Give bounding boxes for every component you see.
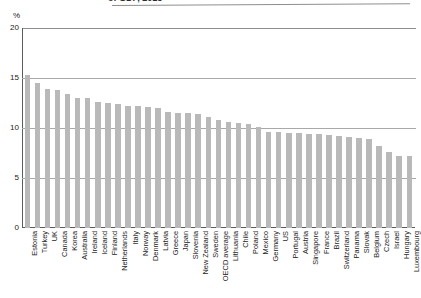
y-tick-label: 20 [1,24,19,32]
x-tick-label: Estonia [31,206,38,231]
x-label-slot: Denmark [144,231,154,298]
x-label-slot: Norway [134,231,144,298]
x-label-slot: France [314,231,324,298]
x-label-slot: New Zealand [194,231,204,298]
x-label-slot: Poland [244,231,254,298]
bar [25,75,31,228]
x-label-slot: Latvia [154,231,164,298]
bar-slot [134,28,144,228]
x-label-slot: Sweden [204,231,214,298]
bar-slot [23,28,33,228]
x-tick-label: Iceland [101,207,108,231]
x-label-slot: Portugal [284,231,294,298]
x-label-slot: Switzerland [335,231,345,298]
bar-slot [294,28,304,228]
chart-title-text: of GDP, 2015 [108,0,162,3]
x-label-slot: Iceland [93,231,103,298]
bar-slot [184,28,194,228]
bars-group [23,28,415,228]
x-label-slot: Belgium [365,231,375,298]
x-label-slot: Canada [53,231,63,298]
bar [135,106,141,228]
x-label-slot: Lithuania [224,231,234,298]
x-tick-label: Brazil [333,213,340,231]
x-tick-label: Netherlands [121,191,128,231]
x-tick-label: Singapore [312,197,319,231]
x-tick-label: Mexico [262,208,269,231]
bar-slot [244,28,254,228]
x-tick-label: Lithuania [232,201,239,231]
bar-slot [375,28,385,228]
x-label-slot: Australia [73,231,83,298]
x-label-slot: Finland [103,231,113,298]
bar [55,90,61,228]
x-label-slot: Israel [385,231,395,298]
bar-slot [395,28,405,228]
x-tick-label: Belgium [373,204,380,231]
bar-slot [43,28,53,228]
bar-slot [33,28,43,228]
x-tick-label: Czech [383,210,390,231]
x-label-slot: Czech [375,231,385,298]
x-label-slot: Brazil [325,231,335,298]
x-tick-label: Japan [182,211,189,231]
x-label-slot: Estonia [23,231,33,298]
x-tick-label: Finland [111,207,118,231]
bar-slot [63,28,73,228]
x-tick-label: Luxembourg [413,190,420,231]
x-label-slot: Luxembourg [405,231,415,298]
x-tick-label: Austria [302,208,309,231]
x-tick-label: Ireland [91,208,98,231]
bar-slot [274,28,284,228]
bar-slot [355,28,365,228]
x-label-slot: Netherlands [113,231,123,298]
x-tick-label: Latvia [162,211,169,231]
x-label-slot: Japan [174,231,184,298]
x-tick-label: Denmark [152,201,159,231]
x-tick-label: Israel [393,213,400,231]
x-tick-label: Slovenia [192,203,199,231]
bar-slot [254,28,264,228]
x-label-slot: Hungary [395,231,405,298]
x-tick-label: Hungary [403,203,410,231]
bar-slot [93,28,103,228]
bar [75,98,81,228]
x-label-slot: OECD average [214,231,224,298]
bar [45,89,51,228]
x-tick-label: Switzerland [343,193,350,231]
bar-slot [174,28,184,228]
x-tick-label: OECD average [222,181,229,231]
x-tick-label: Turkey [41,209,48,231]
x-label-slot: Mexico [254,231,264,298]
x-label-slot: Chile [234,231,244,298]
bar-slot [73,28,83,228]
bar-slot [103,28,113,228]
bar [286,133,292,228]
x-tick-label: France [323,208,330,231]
x-tick-label: New Zealand [202,187,209,231]
bar-slot [144,28,154,228]
x-label-slot: Italy [124,231,134,298]
bar-slot [234,28,244,228]
x-tick-label: Panama [353,203,360,231]
y-tick-label: 5 [1,174,19,182]
x-tick-label: Greece [172,207,179,231]
bar-slot [154,28,164,228]
x-label-slot: Greece [164,231,174,298]
x-label-slot: Singapore [304,231,314,298]
x-label-slot: Germany [264,231,274,298]
x-tick-label: US [282,221,289,231]
bar-slot [284,28,294,228]
x-axis-labels-group: EstoniaTurkeyUKCanadaKoreaAustraliaIrela… [23,231,415,298]
bar-slot [264,28,274,228]
x-tick-label-text: Luxembourg [413,231,420,272]
y-tick-label: 0 [1,224,19,232]
bar-slot [365,28,375,228]
x-tick-label: Slovak [363,209,370,231]
x-label-slot: Korea [63,231,73,298]
x-tick-label: Chile [242,214,249,231]
x-tick-label: Korea [71,211,78,231]
x-label-slot: Ireland [83,231,93,298]
x-label-slot: Panama [345,231,355,298]
